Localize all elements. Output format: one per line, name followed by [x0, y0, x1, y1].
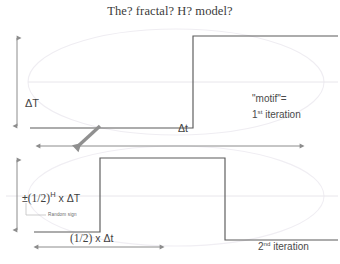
- label-second-iteration-amplitude: ±(1/2)H x ΔT: [22, 190, 80, 204]
- label-delta-t-time: Δt: [178, 122, 188, 134]
- time-multiplier: x: [92, 232, 103, 244]
- amplitude-fraction: (1/2): [28, 192, 50, 204]
- motif-line-2: 1st iteration: [252, 105, 301, 121]
- diagram-vector-layer: [0, 0, 340, 264]
- label-delta-t-amplitude: ΔT: [25, 97, 39, 109]
- label-motif-first-iteration: "motif"= 1st iteration: [252, 92, 301, 121]
- amplitude-multiplier: x: [56, 192, 67, 204]
- motif-iteration-word: iteration: [262, 109, 300, 120]
- transition-arrow: [76, 126, 100, 148]
- motif-line-1: "motif"=: [252, 93, 287, 104]
- figure-canvas: The? fractal? H? model?: [0, 0, 340, 264]
- time-fraction: (1/2): [70, 232, 92, 244]
- random-sign-leader-line: [26, 203, 46, 215]
- label-half-delta-t-span: (1/2) x Δt: [70, 232, 113, 244]
- label-random-sign: Random sign: [48, 212, 77, 217]
- iteration-word: iteration: [270, 241, 308, 252]
- time-delta-t: Δt: [103, 232, 113, 244]
- amplitude-delta-t: ΔT: [67, 192, 80, 204]
- label-second-iteration: 2nd iteration: [258, 240, 309, 252]
